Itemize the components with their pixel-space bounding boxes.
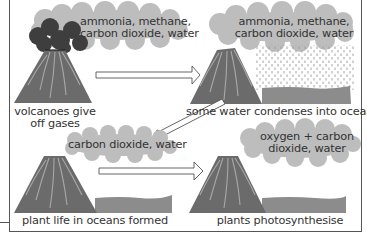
panel1-caption: volcanoes give off gases [10, 106, 100, 130]
panel3-volcano-icon [14, 156, 97, 213]
panel3-cloud-text: carbon dioxide, water [68, 139, 176, 151]
panel1-cloud-line2: carbon dioxide, water [80, 28, 184, 40]
panel2-rain-icon [255, 45, 355, 90]
panel2-volcano-icon [190, 48, 262, 104]
panel2-caption: some water condenses into oceans [186, 106, 360, 118]
panel2-ocean-icon [262, 86, 351, 104]
panel4-volcano-icon [189, 156, 266, 213]
panel3-caption: plant life in oceans formed [20, 215, 170, 227]
arrow-right-icon [96, 66, 200, 84]
panel4-caption: plants photosynthesise [205, 215, 355, 227]
atmosphere-evolution-diagram: ammonia, methane, carbon dioxide, water … [0, 0, 367, 236]
panel4-ocean-icon [262, 196, 346, 213]
arrow-right-icon [99, 162, 203, 180]
panel3-cloud-line1: carbon dioxide, water [68, 139, 176, 151]
panel4-cloud-text: oxygen + carbon dioxide, water [258, 131, 356, 155]
panel4-cloud-line2: dioxide, water [258, 143, 356, 155]
panel2-cloud-line2: carbon dioxide, water [232, 28, 356, 40]
panel1-cloud-text: ammonia, methane, carbon dioxide, water [80, 16, 184, 40]
panel1-caption-line2: off gases [10, 118, 100, 130]
panel2-cloud-text: ammonia, methane, carbon dioxide, water [232, 16, 356, 40]
panel3-ocean-icon [95, 195, 172, 213]
panel1-volcano-icon [14, 50, 92, 103]
